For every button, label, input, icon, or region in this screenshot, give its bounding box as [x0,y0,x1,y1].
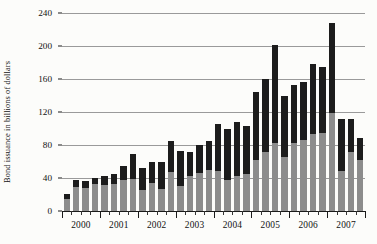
bar-segment-lower [168,172,174,211]
x-axis-quarter-tick [223,211,224,215]
bar-2006-Q4 [319,67,325,211]
bar-segment-upper [253,92,259,160]
x-axis-year-tick [62,211,63,218]
x-axis-year-tick [289,211,290,218]
bar-segment-upper [215,124,221,172]
bar-segment-upper [300,82,306,141]
bar-segment-upper [243,126,249,174]
bar-segment-lower [281,157,287,211]
plot-area [62,13,365,211]
bar-segment-lower [196,173,202,211]
y-axis-tick-label: 240 [38,8,52,18]
bar-2000-Q2 [73,180,79,211]
x-axis-quarter-tick [185,211,186,215]
bar-segment-upper [310,64,316,134]
x-axis-label-2002: 2002 [147,220,167,230]
bar-2004-Q4 [243,126,249,211]
bar-segment-upper [329,23,335,113]
bar-2002-Q2 [149,162,155,211]
bar-2003-Q3 [196,145,202,211]
x-axis-quarter-tick [157,211,158,215]
bar-series [62,13,365,211]
bar-2005-Q4 [281,96,287,212]
x-axis-quarter-tick [147,211,148,215]
x-axis-year-tick [365,211,366,218]
bar-2000-Q4 [92,178,98,211]
bar-segment-lower [234,176,240,211]
bar-segment-upper [120,166,126,180]
bar-segment-lower [272,143,278,211]
bar-segment-lower [206,170,212,211]
x-axis-quarter-tick [232,211,233,215]
bar-2007-Q3 [348,119,354,211]
bar-segment-lower [130,179,136,211]
x-axis-year-tick [214,211,215,218]
bar-segment-lower [262,152,268,211]
bar-segment-lower [291,143,297,211]
x-axis-label-2003: 2003 [185,220,205,230]
x-axis-quarter-tick [261,211,262,215]
x-axis: 20002001200220032004200520062007 [62,211,365,244]
x-axis-year-tick [138,211,139,218]
bar-segment-upper [82,181,88,188]
bar-segment-lower [101,185,107,211]
bar-2006-Q1 [291,85,297,211]
bar-segment-lower [120,180,126,211]
bar-2000-Q1 [64,194,70,211]
bar-2001-Q2 [111,174,117,211]
bar-segment-upper [357,138,363,159]
x-axis-quarter-tick [109,211,110,215]
bar-segment-lower [215,171,221,211]
bar-segment-lower [64,199,70,211]
bar-segment-lower [158,189,164,211]
bar-2005-Q1 [253,92,259,211]
bar-segment-lower [139,190,145,211]
bar-segment-lower [338,171,344,211]
bar-segment-lower [329,113,335,211]
x-axis-quarter-tick [270,211,271,215]
x-axis-quarter-tick [166,211,167,215]
bar-segment-lower [224,180,230,211]
x-axis-label-2000: 2000 [71,220,91,230]
bar-2004-Q3 [234,122,240,211]
y-axis-tick-label: 40 [43,173,52,183]
bar-2005-Q3 [272,45,278,211]
x-axis-year-tick [176,211,177,218]
bar-segment-lower [92,184,98,211]
x-axis-quarter-tick [195,211,196,215]
bar-segment-upper [196,145,202,173]
x-axis-year-tick [251,211,252,218]
bar-segment-upper [291,85,297,144]
x-axis-quarter-tick [128,211,129,215]
bar-2002-Q3 [158,162,164,212]
bar-2002-Q1 [139,168,145,211]
x-axis-label-2001: 2001 [109,220,129,230]
y-axis-tick-label: 160 [38,74,52,84]
x-axis-quarter-tick [280,211,281,215]
x-axis-quarter-tick [318,211,319,215]
x-axis-label-2006: 2006 [298,220,318,230]
bar-2004-Q1 [215,124,221,211]
bar-segment-lower [357,160,363,211]
bar-2007-Q2 [338,119,344,211]
bar-2005-Q2 [262,79,268,211]
bar-segment-lower [243,174,249,211]
bar-segment-upper [177,151,183,186]
y-axis-tick-label: 200 [38,41,52,51]
bar-segment-upper [262,79,268,152]
bar-segment-upper [73,180,79,187]
bar-segment-upper [187,152,193,176]
y-axis-tick-label: 80 [43,140,52,150]
bar-segment-upper [158,162,164,189]
bar-2001-Q4 [130,154,136,211]
bar-2007-Q1 [329,23,335,211]
bar-segment-upper [348,119,354,152]
bar-2006-Q3 [310,64,316,211]
bar-segment-upper [111,174,117,184]
x-axis-quarter-tick [71,211,72,215]
bar-segment-lower [348,152,354,211]
bar-segment-upper [234,122,240,176]
x-axis-quarter-tick [356,211,357,215]
y-axis-tick-label: 0 [47,206,52,216]
bar-segment-lower [82,188,88,211]
